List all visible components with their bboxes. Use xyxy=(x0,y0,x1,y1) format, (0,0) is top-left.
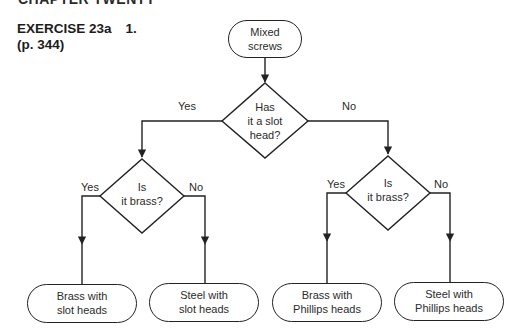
outcome-2-line2: Phillips heads xyxy=(293,303,361,315)
left-no-label: No xyxy=(189,181,203,194)
outcome-1-line1: Steel with xyxy=(180,289,228,301)
right-no-label: No xyxy=(434,178,448,191)
start-terminal-text: Mixed screws xyxy=(248,25,282,53)
connector-left-no xyxy=(184,196,205,244)
outcome-3-line1: Steel with xyxy=(425,288,473,300)
decision-main-line3: head? xyxy=(250,129,281,141)
left-yes-label: Yes xyxy=(81,181,99,194)
outcome-2-line1: Brass with xyxy=(302,289,353,301)
outcome-steel-slot-text: Steel with slot heads xyxy=(179,288,229,316)
decision-right-line1: Is xyxy=(384,177,393,189)
main-no-label: No xyxy=(342,100,356,113)
connector-right-no xyxy=(430,193,450,241)
right-yes-label: Yes xyxy=(327,178,345,191)
outcome-brass-phillips-text: Brass with Phillips heads xyxy=(293,288,361,316)
outcome-1-line2: slot heads xyxy=(179,303,229,315)
connector-main-no xyxy=(308,121,388,154)
outcome-3-line2: Phillips heads xyxy=(415,302,483,314)
main-yes-label: Yes xyxy=(178,100,196,113)
decision-left-line2: it brass? xyxy=(121,195,163,207)
outcome-steel-phillips-text: Steel with Phillips heads xyxy=(415,287,483,315)
outcome-brass-slot-text: Brass with slot heads xyxy=(57,289,108,317)
decision-main-line1: Has xyxy=(255,101,275,113)
decision-right-text: Is it brass? xyxy=(367,176,409,204)
connector-main-yes xyxy=(142,121,222,157)
decision-right-line2: it brass? xyxy=(367,191,409,203)
start-line1: Mixed xyxy=(250,26,279,38)
outcome-0-line1: Brass with xyxy=(57,290,108,302)
decision-left-text: Is it brass? xyxy=(121,180,163,208)
decision-main-line2: it a slot xyxy=(248,115,283,127)
start-line2: screws xyxy=(248,40,282,52)
decision-main-text: Has it a slot head? xyxy=(248,100,283,142)
decision-left-line1: Is xyxy=(138,181,147,193)
connector-left-yes xyxy=(82,196,100,244)
outcome-0-line2: slot heads xyxy=(57,304,107,316)
connector-right-yes xyxy=(327,193,346,241)
